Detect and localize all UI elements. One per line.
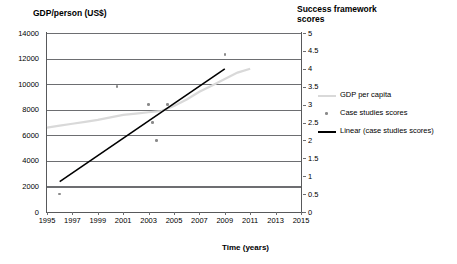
right-axis-tick-mark	[303, 176, 306, 177]
data-point	[224, 53, 227, 56]
x-axis-tick-mark	[72, 212, 73, 215]
right-axis-tick-label: 1	[308, 172, 338, 181]
plot-area	[47, 33, 301, 212]
right-axis-tick-label: 0.5	[308, 190, 338, 199]
gridline	[47, 84, 301, 85]
chart-container: GDP/person (US$) Success framework score…	[0, 0, 457, 264]
left-axis-tick-label: 12000	[5, 54, 39, 63]
right-axis-tick-mark	[303, 123, 306, 124]
x-axis-tick-mark	[47, 212, 48, 215]
x-axis-title: Time (years)	[222, 243, 269, 253]
x-axis-tick-label: 2015	[286, 216, 316, 225]
left-axis-tick-label: 10000	[5, 80, 39, 89]
gridline	[47, 33, 301, 34]
right-axis-tick-label: 2.5	[308, 118, 338, 127]
right-axis-title: Success framework scores	[297, 4, 377, 24]
x-axis-tick-mark	[174, 212, 175, 215]
data-point	[151, 121, 154, 124]
legend-label: Case studies scores	[340, 108, 408, 117]
right-axis-tick-label: 2	[308, 136, 338, 145]
left-axis-title: GDP/person (US$)	[33, 8, 107, 18]
data-point	[147, 103, 150, 106]
gridline	[47, 110, 301, 111]
right-axis-tick-label: 4	[308, 64, 338, 73]
legend-dot-swatch	[325, 112, 328, 115]
x-axis-tick-mark	[98, 212, 99, 215]
left-axis-tick-label: 6000	[5, 131, 39, 140]
legend-line-swatch	[318, 95, 336, 97]
left-axis-tick-label: 8000	[5, 105, 39, 114]
left-axis-tick-label: 2000	[5, 182, 39, 191]
right-axis-tick-label: 1.5	[308, 154, 338, 163]
data-point	[116, 85, 119, 88]
gridline	[47, 135, 301, 136]
x-axis-tick-mark	[301, 212, 302, 215]
right-axis-tick-mark	[303, 87, 306, 88]
right-axis-tick-label: 5	[308, 29, 338, 38]
x-axis-tick-mark	[199, 212, 200, 215]
x-axis-tick-mark	[225, 212, 226, 215]
right-axis-tick-label: 4.5	[308, 46, 338, 55]
left-axis-tick-label: 14000	[5, 29, 39, 38]
right-axis-tick-mark	[303, 212, 306, 213]
right-axis-tick-label: 3.5	[308, 82, 338, 91]
right-axis-tick-label: 3	[308, 100, 338, 109]
data-point	[166, 103, 169, 106]
right-axis-tick-mark	[303, 69, 306, 70]
right-axis-tick-mark	[303, 51, 306, 52]
left-axis-tick-label: 4000	[5, 156, 39, 165]
right-axis-tick-mark	[303, 158, 306, 159]
right-axis-tick-mark	[303, 140, 306, 141]
x-axis-tick-mark	[276, 212, 277, 215]
legend-label: GDP per capita	[340, 90, 391, 99]
gridline	[47, 186, 301, 187]
x-axis-tick-mark	[123, 212, 124, 215]
gridline	[47, 161, 301, 162]
right-axis-tick-mark	[303, 194, 306, 195]
right-axis-tick-mark	[303, 33, 306, 34]
right-axis-tick-mark	[303, 105, 306, 106]
data-point	[155, 139, 158, 142]
legend-label: Linear (case studies scores)	[340, 126, 434, 135]
gridline	[47, 59, 301, 60]
x-axis-tick-mark	[250, 212, 251, 215]
legend-line-swatch	[318, 131, 336, 133]
x-axis-tick-mark	[149, 212, 150, 215]
